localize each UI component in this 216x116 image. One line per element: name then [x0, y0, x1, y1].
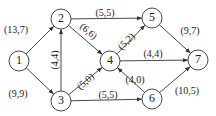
edge-label-1-2: (13,7) [4, 24, 28, 36]
node-6: 6 [142, 89, 162, 109]
node-label: 3 [58, 93, 64, 107]
edge-1-3 [26, 68, 53, 94]
node-label: 6 [149, 91, 155, 105]
edge-label-1-3: (9,9) [8, 88, 27, 100]
node-5: 5 [142, 8, 162, 28]
node-3: 3 [51, 91, 71, 111]
node-4: 4 [100, 51, 120, 71]
node-7: 7 [188, 50, 208, 70]
edge-label-3-2: (4,4) [49, 50, 61, 69]
edge-4-7 [120, 60, 188, 61]
edge-label-2-4: (6,6) [77, 21, 99, 43]
edge-label-4-7: (4,4) [143, 48, 162, 60]
edge-1-2 [26, 26, 54, 54]
edge-label-3-6: (5,5) [98, 89, 117, 101]
node-label: 2 [58, 11, 64, 25]
edge-label-5-7: (9,7) [180, 25, 199, 37]
node-label: 4 [107, 53, 113, 67]
network-flow-diagram: (13,7)(9,9)(4,4)(5,5)(6,6)(5,0)(5,5)(5,2… [0, 0, 216, 116]
edge-label-3-4: (5,0) [74, 71, 96, 93]
node-2: 2 [51, 9, 71, 29]
edge-label-6-4: (4,0) [125, 74, 144, 86]
node-label: 5 [149, 10, 155, 24]
edge-label-6-7: (10,5) [175, 85, 199, 97]
node-1: 1 [9, 51, 29, 71]
node-label: 7 [195, 52, 201, 66]
node-label: 1 [16, 53, 22, 67]
edge-label-4-5: (5,2) [115, 30, 137, 52]
edge-label-2-5: (5,5) [95, 7, 114, 19]
